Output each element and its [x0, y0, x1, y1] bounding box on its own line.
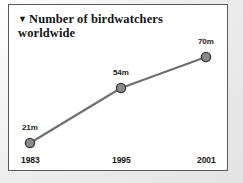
data-label-1983: 21m [22, 123, 38, 132]
data-point-marker-1983 [25, 138, 34, 147]
x-axis-tick-2001: 2001 [197, 155, 216, 165]
data-point-marker-1995 [116, 83, 125, 92]
chart-panel: ▼Number of birdwatchers worldwide 21m 54… [8, 4, 228, 171]
line-chart-plot-area [9, 5, 228, 171]
data-point-marker-2001 [201, 52, 210, 61]
x-axis-tick-1995: 1995 [112, 155, 131, 165]
screenshot-root: ▼Number of birdwatchers worldwide 21m 54… [0, 0, 243, 183]
data-label-2001: 70m [198, 37, 214, 46]
data-label-1995: 54m [113, 68, 129, 77]
x-axis-tick-1983: 1983 [21, 155, 40, 165]
